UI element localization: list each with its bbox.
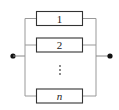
component-label: 1 xyxy=(57,13,63,25)
component-label: n xyxy=(57,90,63,102)
component-2: 2 xyxy=(25,38,96,52)
parallel-system-diagram: 1 2 n xyxy=(0,0,119,110)
component-1: 1 xyxy=(25,12,96,26)
component-label: 2 xyxy=(57,39,63,51)
vertical-ellipsis xyxy=(59,65,61,75)
component-n: n xyxy=(25,89,96,103)
output-node xyxy=(107,53,112,58)
